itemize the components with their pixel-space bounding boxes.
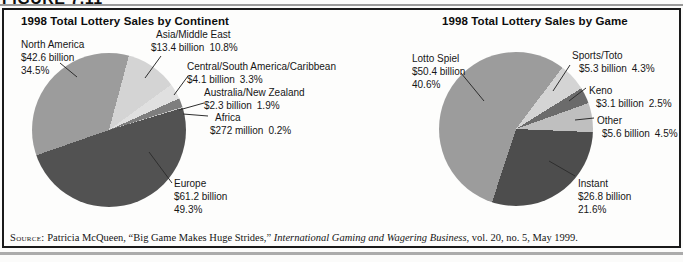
slice-percent: 34.5% — [21, 64, 84, 77]
slice-name: Africa — [210, 111, 291, 124]
label-north-america: North America $42.6 billion 34.5% — [21, 38, 84, 77]
slice-value: $5.6 billion — [602, 128, 650, 139]
slice-name: Australia/New Zealand — [204, 86, 305, 99]
label-keno: Keno $3.1 billion2.5% — [589, 84, 672, 110]
slice-percent: 4.3% — [632, 63, 655, 74]
source-journal: International Gaming and Wagering Busine… — [274, 232, 467, 243]
slice-value: $4.1 billion — [187, 74, 235, 85]
slice-name: Central/South America/Caribbean — [187, 60, 336, 73]
source-author-title: Patricia McQueen, “Big Game Makes Huge S… — [45, 232, 274, 243]
slice-value: $42.6 billion — [21, 51, 84, 64]
figure-page: FIGURE 7.11 1998 Total Lottery Sales by … — [0, 0, 683, 262]
slice-percent: 10.8% — [209, 42, 237, 53]
slice-name: Asia/Middle East — [151, 28, 238, 41]
label-other: Other $5.6 billion4.5% — [597, 114, 678, 140]
slice-value: $26.8 billion — [578, 190, 631, 203]
slice-value: $50.4 billion — [412, 65, 465, 78]
slice-value: $5.3 billion — [579, 63, 627, 74]
slice-percent: 2.5% — [649, 98, 672, 109]
slice-percent: 4.5% — [655, 128, 678, 139]
slice-percent: 3.3% — [240, 74, 263, 85]
continent-chart-title: 1998 Total Lottery Sales by Continent — [21, 14, 229, 28]
slice-name: Keno — [589, 84, 672, 97]
slice-value: $2.3 billion — [204, 100, 252, 111]
slice-value: $3.1 billion — [596, 98, 644, 109]
slice-name: North America — [21, 38, 84, 51]
slice-name: Instant — [578, 177, 631, 190]
label-sports-toto: Sports/Toto $5.3 billion4.3% — [572, 49, 655, 75]
slice-value: $13.4 billion — [151, 42, 204, 53]
source-issue: , vol. 20, no. 5, May 1999. — [466, 232, 577, 243]
figure-number-label: FIGURE 7.11 — [2, 0, 103, 8]
slice-percent: 1.9% — [257, 100, 280, 111]
bottom-divider-rule — [0, 252, 683, 255]
slice-name: Sports/Toto — [572, 49, 655, 62]
slice-percent: 49.3% — [174, 203, 227, 216]
slice-name: Other — [597, 114, 678, 127]
slice-name: Europe — [174, 177, 227, 190]
slice-percent: 0.2% — [268, 125, 291, 136]
callout-line-africa — [183, 114, 208, 116]
slice-value: $61.2 billion — [174, 190, 227, 203]
label-instant: Instant $26.8 billion 21.6% — [578, 177, 631, 216]
label-africa: Africa $272 million0.2% — [210, 111, 291, 137]
slice-percent: 21.6% — [578, 203, 631, 216]
label-lotto-spiel: Lotto Spiel $50.4 billion 40.6% — [412, 52, 465, 91]
label-asia-middle-east: Asia/Middle East $13.4 billion10.8% — [151, 28, 238, 54]
slice-name: Lotto Spiel — [412, 52, 465, 65]
figure-frame: 1998 Total Lottery Sales by Continent No… — [2, 8, 681, 248]
source-prefix: Source: — [10, 232, 45, 243]
label-central-south-america: Central/South America/Caribbean $4.1 bil… — [187, 60, 336, 86]
game-chart-title: 1998 Total Lottery Sales by Game — [442, 14, 628, 28]
label-australia-new-zealand: Australia/New Zealand $2.3 billion1.9% — [204, 86, 305, 112]
label-europe: Europe $61.2 billion 49.3% — [174, 177, 227, 216]
source-citation: Source: Patricia McQueen, “Big Game Make… — [10, 231, 670, 244]
slice-percent: 40.6% — [412, 78, 465, 91]
slice-value: $272 million — [210, 125, 263, 136]
